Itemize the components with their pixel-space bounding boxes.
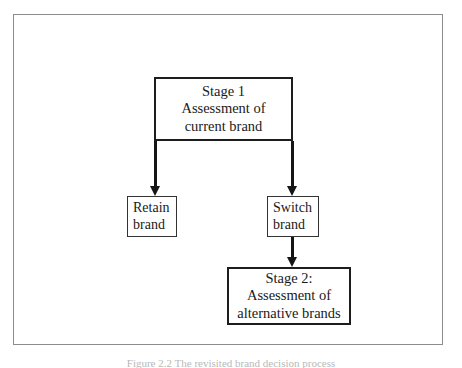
arrow-stem [291, 237, 294, 257]
node-switch-brand-line-1: Switch [273, 200, 312, 217]
node-retain-brand-line-1: Retain [133, 200, 170, 217]
node-switch-brand: Switch brand [267, 196, 319, 237]
node-stage-2-line-3: alternative brands [237, 305, 340, 322]
node-retain-brand-line-2: brand [133, 217, 165, 234]
arrow-stem [154, 141, 157, 186]
arrow-head-icon [287, 186, 297, 196]
arrow-head-icon [150, 186, 160, 196]
node-stage-2-line-2: Assessment of [247, 287, 331, 304]
arrow-stem [291, 141, 294, 186]
node-stage-2-line-1: Stage 2: [265, 270, 312, 287]
figure-caption: Figure 2.2 The revisited brand decision … [0, 357, 462, 368]
node-switch-brand-line-2: brand [273, 217, 305, 234]
node-retain-brand: Retain brand [127, 196, 177, 237]
node-stage-1-line-2: Assessment of [181, 100, 265, 117]
arrow-head-icon [287, 257, 297, 267]
node-stage-1-line-3: current brand [185, 118, 263, 135]
figure-frame: Stage 1 Assessment of current brand Reta… [13, 14, 443, 345]
node-stage-2: Stage 2: Assessment of alternative brand… [227, 267, 351, 325]
node-stage-1: Stage 1 Assessment of current brand [154, 77, 293, 141]
node-stage-1-line-1: Stage 1 [202, 83, 245, 100]
